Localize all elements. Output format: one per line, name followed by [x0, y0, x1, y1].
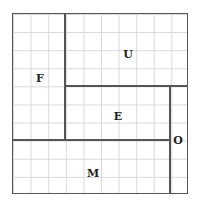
region-label-o: O	[173, 134, 183, 147]
divider-f-right	[64, 13, 66, 140]
region-label-f: F	[36, 72, 44, 85]
region-label-u: U	[123, 48, 133, 61]
grid-board	[12, 13, 188, 194]
divider-m-top	[12, 139, 170, 141]
region-label-e: E	[114, 110, 122, 123]
region-label-m: M	[87, 167, 99, 180]
